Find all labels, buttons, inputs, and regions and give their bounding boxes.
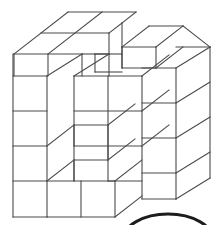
right-face xyxy=(176,152,210,178)
front-face xyxy=(81,181,115,217)
left-face xyxy=(13,181,47,217)
front-face xyxy=(74,146,108,181)
front-face xyxy=(108,111,142,146)
front-face xyxy=(142,173,176,199)
cube-stack-illustration: Isometric unit-cube block figure Line dr… xyxy=(0,0,224,225)
left-face xyxy=(13,76,47,111)
front-face xyxy=(108,76,142,111)
front-face xyxy=(142,138,176,173)
left-face xyxy=(13,146,47,181)
figure-root: Isometric unit-cube block figure Line dr… xyxy=(0,0,224,225)
front-face xyxy=(74,76,108,111)
left-face xyxy=(13,111,47,146)
front-face xyxy=(47,181,81,217)
